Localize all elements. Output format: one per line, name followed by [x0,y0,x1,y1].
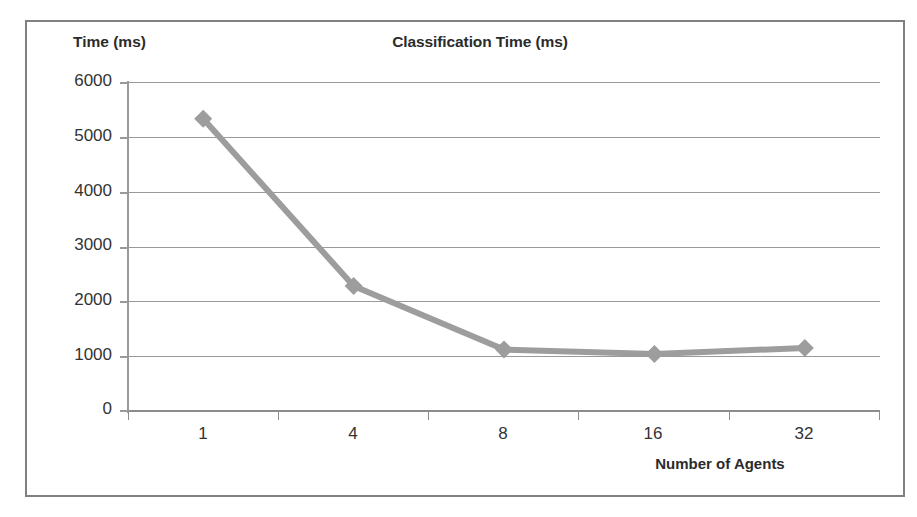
x-tick-label-4: 4 [323,424,383,444]
y-tick-label-3000: 3000 [52,235,112,255]
gridline-4000 [128,192,880,193]
x-tick-5 [879,411,880,420]
x-tick-0 [128,411,129,420]
x-tick-label-8: 8 [473,424,533,444]
x-tick-label-32: 32 [774,424,834,444]
y-tick-label-2000: 2000 [52,290,112,310]
x-tick-label-1: 1 [173,424,233,444]
x-tick-1 [278,411,279,420]
gridline-3000 [128,247,880,248]
y-tick-6000 [120,82,129,84]
y-tick-label-5000: 5000 [52,126,112,146]
y-tick-1000 [120,356,129,358]
y-tick-3000 [120,247,129,249]
x-tick-label-16: 16 [623,424,683,444]
gridline-5000 [128,137,880,138]
chart-title: Classification Time (ms) [330,33,630,51]
chart-figure: Time (ms) Classification Time (ms) Numbe… [0,0,917,517]
x-tick-4 [729,411,730,420]
gridline-2000 [128,301,880,302]
x-tick-2 [428,411,429,420]
x-tick-3 [578,411,579,420]
y-tick-label-0: 0 [52,399,112,419]
y-tick-4000 [120,192,129,194]
gridline-axis-baseline [128,410,880,412]
plot-area [128,82,880,411]
y-tick-2000 [120,301,129,303]
y-tick-label-6000: 6000 [52,71,112,91]
y-tick-label-1000: 1000 [52,345,112,365]
y-tick-label-4000: 4000 [52,181,112,201]
y-tick-labels: 6000 5000 4000 3000 2000 1000 0 [52,0,112,517]
x-axis-title: Number of Agents [600,455,840,472]
y-tick-5000 [120,137,129,139]
gridline-1000 [128,356,880,357]
gridline-6000 [128,82,880,83]
